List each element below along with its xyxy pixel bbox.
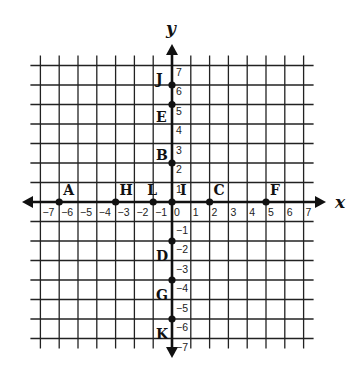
point-b-label: B (156, 147, 168, 163)
y-tick-label: 5 (176, 105, 182, 117)
point-e-label: E (156, 109, 167, 125)
point-k-dot (168, 315, 175, 322)
point-c-dot (206, 198, 213, 205)
x-tick-label: −4 (99, 206, 111, 218)
x-tick-label: 2 (212, 206, 218, 218)
y-tick-label: −6 (176, 321, 188, 333)
x-tick-label: 7 (306, 206, 312, 218)
y-tick-label: −2 (176, 243, 188, 255)
y-axis-up-arrow-icon (166, 44, 178, 55)
point-j-label: J (154, 71, 163, 87)
y-tick-label: 2 (176, 163, 182, 175)
x-tick-label: −2 (136, 206, 148, 218)
point-b-dot (168, 159, 175, 166)
point-a-dot (56, 198, 63, 205)
x-tick-label: −1 (155, 206, 167, 218)
y-tick-label: −7 (176, 341, 188, 353)
point-i-dot (168, 198, 175, 205)
point-l-label: L (147, 182, 157, 198)
y-tick-label: −4 (176, 282, 188, 294)
point-e-dot (168, 101, 175, 108)
x-tick-label: −5 (80, 206, 92, 218)
tick-labels: −7−6−5−4−3−2−1012345677654321−1−2−3−4−5−… (42, 66, 311, 353)
point-k-label: K (156, 326, 169, 342)
point-h-label: H (120, 182, 133, 198)
point-f-label: F (270, 182, 280, 198)
x-axis-label: x (334, 192, 346, 212)
y-tick-label: −1 (176, 224, 188, 236)
x-axis-right-arrow-icon (315, 196, 326, 208)
y-tick-label: 6 (176, 85, 182, 97)
x-tick-label: 5 (268, 206, 274, 218)
y-axis-label: y (165, 18, 177, 38)
y-tick-label: 7 (176, 66, 182, 78)
point-f-dot (262, 198, 269, 205)
x-tick-label: 0 (174, 206, 180, 218)
x-tick-label: 3 (230, 206, 236, 218)
point-h-dot (112, 198, 119, 205)
point-i-label: I (180, 182, 187, 198)
x-tick-label: −6 (61, 206, 73, 218)
point-g-label: G (156, 287, 168, 303)
point-d-label: D (156, 248, 168, 264)
x-tick-label: −3 (118, 206, 130, 218)
y-tick-label: −5 (176, 302, 188, 314)
point-j-dot (168, 81, 175, 88)
x-tick-label: 1 (193, 206, 199, 218)
point-g-dot (168, 276, 175, 283)
y-tick-label: −3 (176, 263, 188, 275)
x-tick-label: 4 (249, 206, 255, 218)
y-tick-label: 4 (176, 124, 182, 136)
x-axis-left-arrow-icon (22, 196, 33, 208)
point-a-label: A (62, 182, 75, 198)
x-tick-label: 6 (287, 206, 293, 218)
point-c-label: C (214, 182, 225, 198)
point-l-dot (150, 198, 157, 205)
x-tick-label: −7 (42, 206, 54, 218)
point-d-dot (168, 237, 175, 244)
coordinate-plane: −7−6−5−4−3−2−1012345677654321−1−2−3−4−5−… (0, 0, 359, 373)
y-tick-label: 3 (176, 144, 182, 156)
